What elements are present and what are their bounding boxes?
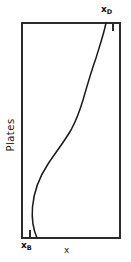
- tick-label-x-sub-D-base: x: [101, 4, 107, 14]
- tick-label-x-sub-B-base: x: [21, 240, 27, 250]
- x-axis-label: x: [64, 246, 70, 255]
- tick-label-x-sub-B: xB: [21, 241, 32, 250]
- tick-label-x-sub-D-subscript: D: [107, 8, 112, 16]
- y-axis-label-text: Plates: [6, 118, 16, 151]
- tick-label-x-sub-B-subscript: B: [27, 244, 32, 252]
- composition-profile-figure: Plates x xD xB: [0, 0, 131, 262]
- y-axis-label: Plates: [0, 104, 22, 166]
- tick-label-x-sub-D: xD: [101, 5, 112, 14]
